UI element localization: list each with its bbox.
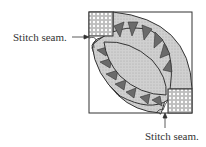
- quilt-block-diagram: [0, 0, 206, 147]
- stitch-seam-label-left: Stitch seam.: [13, 31, 67, 43]
- arrow-left: [72, 35, 89, 39]
- corner-square-bottom-right: [168, 89, 192, 113]
- stitch-seam-label-bottom: Stitch seam.: [145, 130, 199, 142]
- corner-square-top-left: [89, 12, 113, 36]
- arrow-bottom: [163, 113, 167, 128]
